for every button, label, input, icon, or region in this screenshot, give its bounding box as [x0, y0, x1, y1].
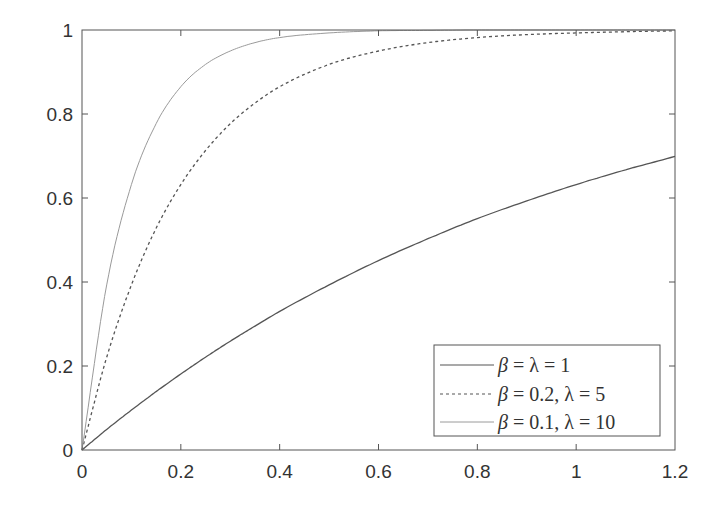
- y-tick-label: 0.2: [47, 356, 73, 377]
- x-tick-label: 1: [571, 461, 582, 482]
- x-tick-label: 1.2: [662, 461, 688, 482]
- legend-entry-1: β = λ = 1: [497, 354, 570, 377]
- legend: β = λ = 1 β = 0.2, λ = 5 β = 0.1, λ = 10: [434, 345, 660, 436]
- x-tick-label: 0.8: [464, 461, 490, 482]
- y-tick-label: 0.4: [47, 272, 74, 293]
- x-tick-label: 0: [77, 461, 88, 482]
- legend-entry-3: β = 0.1, λ = 10: [497, 411, 615, 434]
- x-tick-label: 0.2: [168, 461, 194, 482]
- x-tick-label: 0.6: [365, 461, 391, 482]
- y-tick-label: 0.6: [47, 188, 73, 209]
- y-tick-label: 1: [62, 20, 73, 41]
- y-tick-label: 0.8: [47, 104, 73, 125]
- x-tick-label: 0.4: [266, 461, 293, 482]
- line-chart: 00.20.40.60.811.2 00.20.40.60.81 β = λ =…: [0, 0, 726, 512]
- legend-entry-2: β = 0.2, λ = 5: [497, 383, 605, 406]
- y-tick-label: 0: [62, 440, 73, 461]
